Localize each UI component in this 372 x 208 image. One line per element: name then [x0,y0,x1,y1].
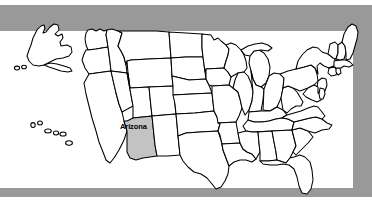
us-map-svg [0,0,372,208]
state-colorado[interactable] [149,86,176,116]
hawaii-island-molokai [45,129,52,133]
state-label-arizona: Arizona [120,123,147,131]
state-north-dakota[interactable] [169,32,203,58]
state-oregon[interactable] [82,47,111,74]
alaska-aleutian-tail [44,63,72,72]
state-alaska[interactable] [27,24,72,66]
hawaii-island-oahu [38,121,43,125]
state-rhode-island[interactable] [336,68,341,75]
us-map-graphic: Arizona [0,0,372,208]
map-figure: Arizona [0,0,372,208]
state-delaware[interactable] [319,88,325,99]
hawaii-island-maui [53,131,58,135]
hawaii-island-bigisland [66,141,73,145]
aleutian-island-1 [14,66,19,70]
state-new-mexico[interactable] [152,114,180,156]
state-arkansas[interactable] [218,122,240,144]
state-kansas[interactable] [173,93,214,114]
hawaii-island-lanai [60,132,66,136]
state-washington[interactable] [85,29,108,50]
state-wyoming[interactable] [127,58,173,88]
aleutian-island-2 [22,65,27,69]
hawaii-island-kauai [31,123,35,128]
